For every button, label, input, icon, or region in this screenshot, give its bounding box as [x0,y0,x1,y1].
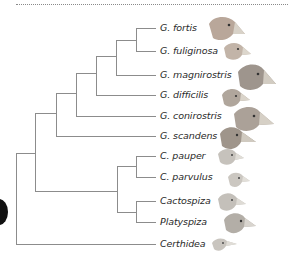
taxon-label-g-magnirostris: G. magnirostris [160,69,232,81]
taxon-label-c-parvulus: C. parvulus [160,171,213,183]
branch-camarhynchus-group [117,166,136,212]
finch-head-icon-g-fortis [207,14,247,42]
taxon-label-g-difficilis: G. difficilis [160,89,208,101]
branch-fortis-fuliginosa [136,28,156,51]
finch-head-icon-platyspiza [222,210,258,236]
taxon-label-cactospiza: Cactospiza [160,195,211,207]
branch-cactospiza-platyspiza [136,201,156,222]
taxon-label-g-fuliginosa: G. fuliginosa [160,45,218,57]
finch-head-icon-g-fuliginosa [222,40,252,62]
taxon-label-g-scandens: G. scandens [160,130,217,142]
branch-main-split [35,113,117,191]
finch-head-icon-certhidea [210,236,238,254]
taxon-label-certhidea: Certhidea [160,238,206,250]
taxon-label-platyspiza: Platyspiza [160,216,207,228]
finch-head-icon-c-parvulus [226,170,252,190]
branch-root [16,153,156,244]
finch-head-icon-c-pauper [216,146,246,168]
branch-scandens [56,93,156,136]
branch-pauper-parvulus [136,156,156,177]
taxon-label-g-conirostris: G. conirostris [160,110,222,122]
taxon-label-c-pauper: C. pauper [160,150,205,162]
taxon-label-g-fortis: G. fortis [160,22,197,34]
